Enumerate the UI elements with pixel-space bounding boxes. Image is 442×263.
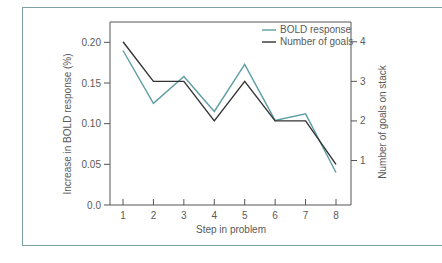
y-tick-label: 0.05	[82, 159, 102, 170]
x-axis-title: Step in problem	[196, 224, 266, 235]
x-tick-label: 2	[151, 210, 157, 221]
x-tick-label: 3	[181, 210, 187, 221]
y2-tick-label: 3	[360, 76, 366, 87]
chart-legend: BOLD responseNumber of goals	[262, 24, 353, 47]
x-tick-label: 1	[120, 210, 126, 221]
series-number-of-goals	[123, 42, 336, 165]
plot-box	[110, 22, 351, 205]
x-tick-label: 8	[333, 210, 339, 221]
legend-label: BOLD response	[280, 24, 352, 35]
y-tick-label: 0.15	[82, 78, 102, 89]
legend-label: Number of goals	[280, 36, 353, 47]
y-tick-label: 0.0	[87, 200, 101, 211]
y2-axis-title: Number of goals on stack	[377, 64, 388, 178]
y-tick-label: 0.20	[82, 37, 102, 48]
x-tick-label: 5	[242, 210, 248, 221]
chart-series	[123, 42, 336, 173]
x-tick-label: 7	[303, 210, 309, 221]
y2-tick-label: 2	[360, 115, 366, 126]
y-tick-label: 0.10	[82, 118, 102, 129]
x-tick-label: 6	[272, 210, 278, 221]
y2-tick-label: 1	[360, 155, 366, 166]
series-bold-response	[123, 51, 336, 173]
y2-tick-label: 4	[360, 36, 366, 47]
y-axis-title: Increase in BOLD response (%)	[62, 53, 73, 194]
x-tick-label: 4	[212, 210, 218, 221]
